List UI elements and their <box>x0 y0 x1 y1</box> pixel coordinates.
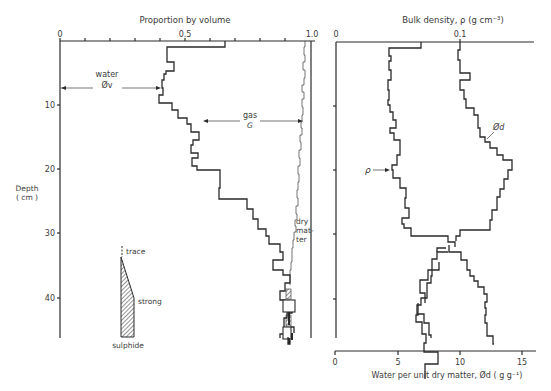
right-title: Bulk density, ρ (g cm⁻³) <box>402 15 503 25</box>
phid-label: Ød <box>492 122 505 132</box>
dry-matter-column <box>283 289 295 344</box>
strong-label: strong <box>138 297 162 306</box>
left-tick-0: 0 <box>57 30 62 39</box>
depth-tick-30: 30 <box>45 229 55 238</box>
depth-tick-10: 10 <box>45 101 55 110</box>
dry-matter-label-1: dry <box>296 217 309 226</box>
sulphide-legend: trace strong sulphide <box>112 246 162 350</box>
sulphide-label: sulphide <box>112 341 144 350</box>
bottom-tick-5: 5 <box>395 358 400 367</box>
rho-curve <box>388 42 455 247</box>
water-symbol: Øv <box>101 80 112 90</box>
arrowhead-icon <box>203 119 208 123</box>
phid-arrow <box>487 132 494 139</box>
arrowhead-icon <box>385 168 390 172</box>
trace-label: trace <box>126 247 146 256</box>
left-title: Proportion by volume <box>139 15 230 25</box>
right-tick-01: 0.1 <box>454 30 467 39</box>
dry-matter-curve <box>290 41 305 285</box>
bottom-title: Water per unit dry matter, Ød ( g g⁻¹) <box>372 370 523 380</box>
water-label: water <box>96 70 120 79</box>
left-tick-10: 1.0 <box>306 30 319 39</box>
arrowhead-icon <box>61 86 66 90</box>
depth-tick-20: 20 <box>45 165 55 174</box>
left-panel: Proportion by volume 0 0.5 1.0 10 20 <box>16 15 319 350</box>
dry-matter-label-3: ter <box>296 235 308 244</box>
arrowhead-icon <box>156 86 161 90</box>
rho-lower-curve <box>449 245 494 344</box>
gas-label: gas <box>243 111 257 120</box>
right-tick-0: 0 <box>333 30 338 39</box>
dry-matter-label-2: mat- <box>296 226 314 235</box>
rho-label: ρ <box>365 165 371 175</box>
gas-symbol: G <box>247 121 253 130</box>
water-curve <box>159 41 292 338</box>
depth-unit: ( cm ) <box>16 193 38 202</box>
left-tick-05: 0.5 <box>179 30 192 39</box>
depth-tick-40: 40 <box>45 294 55 303</box>
depth-label: Depth <box>16 184 39 193</box>
bottom-tick-10: 10 <box>455 358 465 367</box>
figure: Proportion by volume 0 0.5 1.0 10 20 <box>0 0 551 391</box>
bottom-tick-15: 15 <box>517 358 527 367</box>
right-panel: Bulk density, ρ (g cm⁻³) 0 0.1 ρ Ød <box>332 15 536 380</box>
phid-curve <box>456 42 512 241</box>
bottom-tick-0: 0 <box>332 358 337 367</box>
